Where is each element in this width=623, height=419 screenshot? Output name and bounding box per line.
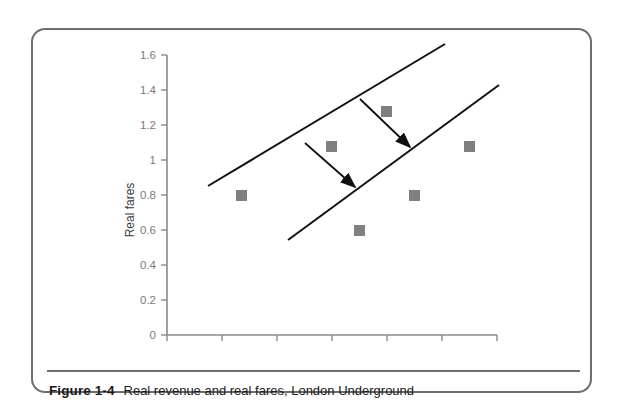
caption-divider bbox=[47, 370, 580, 372]
upper-demand-line bbox=[208, 44, 445, 186]
y-axis-title: Real fares bbox=[123, 183, 137, 238]
y-tick-label: 1.4 bbox=[140, 84, 157, 96]
scatter-chart: 0 0.2 0.4 0.6 0.8 1 1.2 1.4 1.6 bbox=[33, 30, 594, 348]
upper-series-markers bbox=[236, 106, 392, 201]
lower-series-markers bbox=[354, 141, 475, 236]
chart-axes bbox=[167, 55, 497, 335]
data-point-marker bbox=[354, 225, 365, 236]
data-point-marker bbox=[381, 106, 392, 117]
trend-lines bbox=[208, 44, 499, 240]
figure-caption: Figure 1-4 Real revenue and real fares, … bbox=[49, 378, 579, 402]
y-tick-label: 0 bbox=[150, 329, 156, 341]
chart-plot-area: 0 0.2 0.4 0.6 0.8 1 1.2 1.4 1.6 bbox=[33, 30, 594, 348]
x-tick-label: 2 bbox=[219, 346, 225, 348]
x-axis-tick-labels: 0 2 4 6 8 10 12 bbox=[164, 346, 504, 348]
y-tick-label: 0.8 bbox=[140, 189, 156, 201]
figure-caption-text: Real revenue and real fares, London Unde… bbox=[124, 383, 415, 398]
y-axis-tick-labels: 0 0.2 0.4 0.6 0.8 1 1.2 1.4 1.6 bbox=[140, 49, 157, 341]
x-tick-label: 8 bbox=[384, 346, 390, 348]
data-point-marker bbox=[326, 141, 337, 152]
y-tick-label: 0.4 bbox=[140, 259, 157, 271]
x-tick-label: 10 bbox=[436, 346, 449, 348]
figure-frame: 0 0.2 0.4 0.6 0.8 1 1.2 1.4 1.6 bbox=[31, 28, 592, 393]
shift-annotations bbox=[305, 99, 410, 187]
x-tick-label: 4 bbox=[274, 346, 281, 348]
y-tick-label: 0.2 bbox=[140, 294, 156, 306]
y-tick-label: 1.6 bbox=[140, 49, 156, 61]
y-tick-label: 1.2 bbox=[140, 119, 156, 131]
y-tick-label: 0.6 bbox=[140, 224, 156, 236]
x-tick-label: 6 bbox=[329, 346, 335, 348]
x-tick-label: 12 bbox=[491, 346, 504, 348]
y-axis-ticks bbox=[161, 55, 167, 335]
figure-number-label: Figure 1-4 bbox=[49, 383, 115, 398]
x-tick-label: 0 bbox=[164, 346, 170, 348]
data-point-marker bbox=[409, 190, 420, 201]
lower-demand-line bbox=[288, 85, 499, 240]
data-point-marker bbox=[236, 190, 247, 201]
y-tick-label: 1 bbox=[150, 154, 156, 166]
data-point-marker bbox=[464, 141, 475, 152]
x-axis-ticks bbox=[167, 335, 497, 341]
